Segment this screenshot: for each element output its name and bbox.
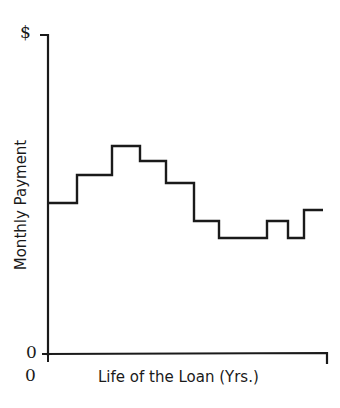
x-axis-label: Life of the Loan (Yrs.) bbox=[98, 368, 259, 386]
y-zero-label: 0 bbox=[26, 342, 37, 362]
step-chart bbox=[0, 0, 340, 408]
y-axis-label: Monthly Payment bbox=[12, 140, 30, 271]
monthly-payment-series bbox=[48, 146, 323, 238]
x-zero-label: 0 bbox=[25, 365, 36, 385]
y-axis bbox=[40, 35, 48, 356]
y-top-label: $ bbox=[20, 22, 31, 42]
x-axis bbox=[42, 353, 327, 364]
